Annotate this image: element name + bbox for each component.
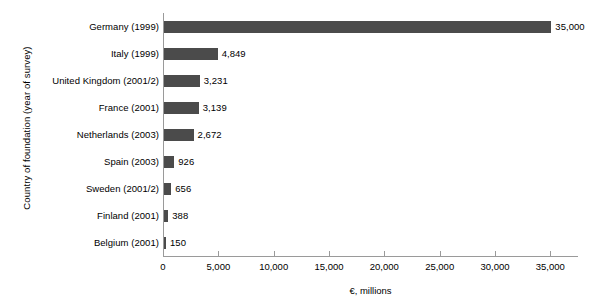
bar-value-label: 656 [175, 183, 191, 195]
bar [164, 48, 218, 60]
category-label: France (2001) [24, 102, 159, 113]
x-axis-tick [440, 251, 441, 256]
x-axis-line [163, 256, 578, 257]
x-axis-tick [550, 251, 551, 256]
x-axis-tick [274, 251, 275, 256]
category-label: Italy (1999) [24, 48, 159, 59]
category-label: Sweden (2001/2) [24, 183, 159, 194]
category-label-column: Germany (1999)Italy (1999)United Kingdom… [24, 13, 159, 256]
bar-value-label: 926 [178, 156, 194, 168]
x-axis-tick [218, 251, 219, 256]
bar-value-label: 3,231 [204, 75, 228, 87]
category-label: Finland (2001) [24, 210, 159, 221]
x-axis-tick [163, 251, 164, 256]
bar-value-label: 4,849 [222, 48, 246, 60]
x-axis-tick [384, 251, 385, 256]
x-axis-tick [329, 251, 330, 256]
plot-area: 05,00010,00015,00020,00025,00030,00035,0… [163, 13, 578, 256]
x-axis-tick-label: 10,000 [244, 261, 304, 272]
bar-value-label: 150 [170, 237, 186, 249]
bar [164, 210, 168, 222]
bar [164, 129, 194, 141]
x-axis-tick-label: 30,000 [465, 261, 525, 272]
bar-value-label: 3,139 [203, 102, 227, 114]
bar-value-label: 2,672 [198, 129, 222, 141]
category-label: United Kingdom (2001/2) [24, 75, 159, 86]
x-axis-tick-label: 25,000 [410, 261, 470, 272]
category-label: Belgium (2001) [24, 237, 159, 248]
x-axis-tick [495, 251, 496, 256]
x-axis-tick-label: 20,000 [354, 261, 414, 272]
bar-value-label: 35,000 [555, 21, 584, 33]
bar-chart: Country of foundation (year of survey) G… [0, 0, 598, 306]
category-label: Spain (2003) [24, 156, 159, 167]
bar [164, 75, 200, 87]
x-axis-tick-label: 35,000 [520, 261, 580, 272]
x-axis-tick-label: 5,000 [188, 261, 248, 272]
bar [164, 21, 551, 33]
category-label: Netherlands (2003) [24, 129, 159, 140]
bar [164, 183, 171, 195]
x-axis-tick-label: 0 [133, 261, 193, 272]
bar [164, 156, 174, 168]
category-label: Germany (1999) [24, 21, 159, 32]
x-axis-title: €, millions [163, 285, 578, 297]
x-axis-tick-label: 15,000 [299, 261, 359, 272]
bar [164, 102, 199, 114]
bar-value-label: 388 [172, 210, 188, 222]
bar [164, 237, 166, 249]
